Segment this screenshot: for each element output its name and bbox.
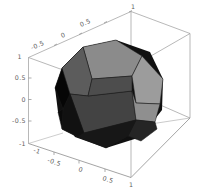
tick-label-bottom-0: -1 bbox=[33, 146, 42, 155]
box-edge-top-front-right bbox=[150, 34, 190, 57]
tick-label-bottom-3: 0.5 bbox=[102, 174, 115, 184]
tick-label-top-0: -0.5 bbox=[30, 39, 46, 51]
tick-label-left-3: -0.5 bbox=[12, 117, 26, 124]
tick-label-left-1: 0.5 bbox=[15, 74, 26, 81]
tick-label-left-0: 1 bbox=[18, 53, 22, 60]
box-edge-top-rear-right bbox=[131, 12, 190, 34]
box-edge-bottom-rear-right bbox=[158, 104, 190, 118]
tick-label-bottom-2: 0 bbox=[78, 165, 84, 173]
tick-label-bottom-4: 1 bbox=[129, 181, 133, 188]
tick-label-left-2: 0 bbox=[22, 96, 26, 103]
plot-figure: -0.5 0 0.5 1 1 0.5 0 -0.5 -1 -1 -0.5 0 0… bbox=[0, 0, 203, 191]
tick-label-top-1: 0 bbox=[60, 31, 67, 39]
dodecahedron bbox=[55, 40, 163, 148]
tick-label-top-3: 1 bbox=[131, 3, 135, 10]
tick-label-top-2: 0.5 bbox=[79, 17, 92, 28]
tick-label-left-4: -1 bbox=[19, 140, 26, 147]
box-edge-floor-left-connector bbox=[29, 133, 64, 144]
tick-label-bottom-1: -0.5 bbox=[47, 156, 62, 167]
plot-canvas: -0.5 0 0.5 1 1 0.5 0 -0.5 -1 -1 -0.5 0 0… bbox=[0, 0, 203, 191]
